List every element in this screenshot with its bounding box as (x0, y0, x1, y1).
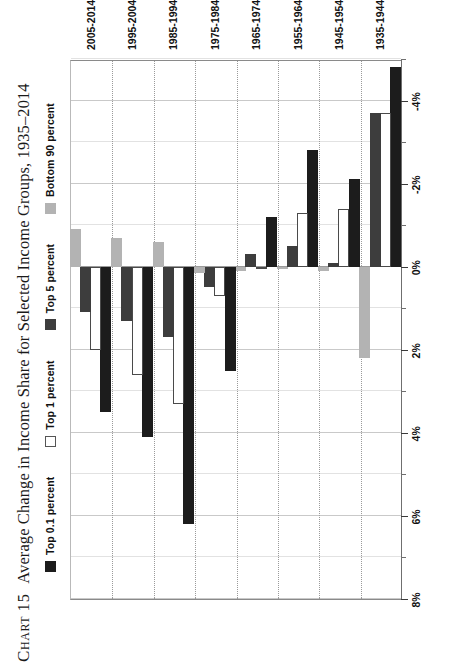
category-label: 1965-1974 (250, 0, 262, 50)
legend-label: Bottom 90 percent (44, 103, 56, 197)
bar-2005-2014-bottom-90-percent (70, 229, 81, 266)
chart-label: Chart (14, 616, 33, 662)
bar-1945-1954-bottom-90-percent (318, 267, 329, 271)
bar-2005-2014-top-1-percent (90, 267, 101, 350)
legend-label: Top 1 percent (44, 360, 56, 429)
legend-swatch-bot90-icon (45, 203, 56, 214)
chart-number: 15 (14, 593, 33, 612)
bar-1995-2004-top-5-percent (121, 267, 132, 321)
category-label: 1985-1994 (167, 0, 179, 50)
bar-1965-1974-top-0.1-percent (266, 217, 277, 267)
bar-1985-1994-top-0.1-percent (183, 267, 194, 525)
bar-1975-1984-top-0.1-percent (225, 267, 236, 371)
bar-1945-1954-top-1-percent (338, 209, 349, 267)
bar-1995-2004-top-0.1-percent (142, 267, 153, 437)
legend-item-bot90: Bottom 90 percent (44, 103, 56, 214)
axis-tick-major (401, 101, 408, 102)
bar-1965-1974-top-5-percent (245, 254, 256, 266)
axis-tick-major (401, 516, 408, 517)
chart-title-text: Average Change in Income Share for Selec… (14, 83, 33, 588)
axis-tick-label: -4% (410, 92, 422, 111)
axis-tick-label: 6% (410, 509, 422, 524)
category-separator (237, 61, 238, 599)
bar-2005-2014-top-0.1-percent (100, 267, 111, 412)
bar-1945-1954-top-5-percent (328, 263, 339, 267)
bar-1975-1984-bottom-90-percent (194, 267, 205, 273)
page-title: Chart 15 Average Change in Income Share … (14, 12, 34, 662)
bar-1935-1944-bottom-90-percent (359, 267, 370, 358)
bar-1945-1954-top-0.1-percent (349, 179, 360, 266)
bar-1995-2004-bottom-90-percent (111, 238, 122, 267)
legend-item-top1: Top 1 percent (44, 360, 56, 446)
axis-tick-minor (401, 308, 406, 309)
value-axis (401, 60, 402, 600)
axis-tick-major (401, 599, 408, 600)
legend-swatch-top1-icon (45, 436, 56, 447)
axis-tick-major (401, 350, 408, 351)
category-separator (154, 61, 155, 599)
axis-tick-label: 2% (410, 343, 422, 358)
bar-2005-2014-top-5-percent (80, 267, 91, 313)
category-separator (112, 61, 113, 599)
axis-tick-major (401, 433, 408, 434)
bar-1965-1974-top-1-percent (256, 267, 267, 269)
axis-tick-minor (401, 557, 406, 558)
plot-area (70, 60, 401, 600)
bar-1975-1984-top-5-percent (204, 267, 215, 288)
bar-1955-1964-top-5-percent (287, 246, 298, 267)
axis-tick-label: 8% (410, 592, 422, 607)
axis-tick-label: 4% (410, 426, 422, 441)
bar-1985-1994-bottom-90-percent (153, 242, 164, 267)
axis-tick-minor (401, 391, 406, 392)
legend-item-top5: Top 5 percent (44, 244, 56, 330)
category-separator (319, 61, 320, 599)
axis-tick-label: -2% (410, 175, 422, 194)
chart-legend: Top 0.1 percentTop 1 percentTop 5 percen… (44, 103, 56, 572)
gridline (71, 58, 401, 59)
category-label: 1995-2004 (126, 0, 138, 50)
bar-1955-1964-bottom-90-percent (277, 267, 288, 269)
axis-tick-minor (401, 142, 406, 143)
axis-tick-major (401, 184, 408, 185)
category-label: 2005-2014 (85, 0, 97, 50)
bar-1975-1984-top-1-percent (214, 267, 225, 296)
bar-1965-1974-bottom-90-percent (235, 267, 246, 271)
chart-figure: Chart 15 Average Change in Income Share … (0, 0, 470, 670)
legend-item-top01: Top 0.1 percent (44, 477, 56, 572)
axis-tick-label: 0% (410, 260, 422, 275)
bar-1995-2004-top-1-percent (132, 267, 143, 375)
category-separator (278, 61, 279, 599)
bar-1935-1944-top-1-percent (380, 113, 391, 267)
legend-label: Top 0.1 percent (44, 477, 56, 555)
axis-tick-minor (401, 474, 406, 475)
legend-label: Top 5 percent (44, 244, 56, 313)
bar-1935-1944-top-5-percent (370, 113, 381, 267)
legend-swatch-top5-icon (45, 319, 56, 330)
bar-1935-1944-top-0.1-percent (390, 67, 401, 266)
axis-tick-minor (401, 59, 406, 60)
bar-1985-1994-top-5-percent (163, 267, 174, 338)
category-label: 1935-1944 (374, 0, 386, 50)
category-separator (195, 61, 196, 599)
category-label: 1945-1954 (333, 0, 345, 50)
category-label: 1955-1964 (292, 0, 304, 50)
bar-1985-1994-top-1-percent (173, 267, 184, 404)
axis-tick-minor (401, 225, 406, 226)
category-label: 1975-1984 (209, 0, 221, 50)
axis-tick-major (401, 267, 408, 268)
bar-1955-1964-top-0.1-percent (307, 150, 318, 266)
category-axis-labels: 1935-19441945-19541955-19641965-19741975… (70, 2, 401, 56)
bar-1955-1964-top-1-percent (297, 213, 308, 267)
legend-swatch-top01-icon (45, 561, 56, 572)
